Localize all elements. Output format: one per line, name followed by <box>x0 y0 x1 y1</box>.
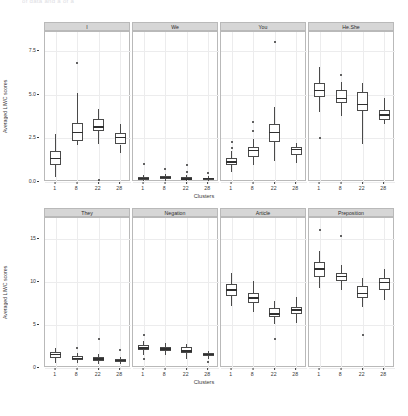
x-tick-label: 28 <box>116 371 122 377</box>
gridline-horizontal <box>133 368 219 369</box>
x-tick-label: 22 <box>271 371 277 377</box>
facet-strip-i: I <box>44 22 130 31</box>
median-line <box>291 309 302 310</box>
facet-strip-they: They <box>44 208 130 217</box>
x-tick-label: 28 <box>204 371 210 377</box>
gridline-horizontal <box>221 368 307 369</box>
x-tick-label: 8 <box>251 371 254 377</box>
y-tick-label: 10 <box>30 278 36 284</box>
median-line <box>115 137 126 138</box>
boxplot-box <box>45 32 131 182</box>
median-line <box>115 360 126 361</box>
facet-panel-article <box>220 217 306 367</box>
whisker-lower <box>384 120 385 123</box>
y-tick-label: 7.5 <box>29 47 36 53</box>
median-line <box>379 282 390 283</box>
y-axis-ticks: 0.02.55.07.5 <box>16 31 38 181</box>
x-tick-label: 28 <box>116 185 122 191</box>
x-tick-label: 22 <box>95 371 101 377</box>
gridline-horizontal <box>309 368 395 369</box>
x-tick-label: 28 <box>380 371 386 377</box>
y-tick-label: 2.5 <box>29 134 36 140</box>
whisker-upper <box>384 269 385 278</box>
outlier-point <box>207 172 209 174</box>
facet-panel-they <box>44 217 130 367</box>
x-tick-label: 8 <box>75 371 78 377</box>
facet-strip-label: Preposition <box>338 210 364 216</box>
y-axis-title: Averaged LIWC scores <box>2 231 8 353</box>
whisker-upper <box>296 297 297 307</box>
x-tick-label: 28 <box>292 185 298 191</box>
x-axis-title: Clusters <box>0 379 408 385</box>
gridline-horizontal <box>309 182 395 183</box>
boxplot-box <box>133 218 219 368</box>
facet-panel-i <box>44 31 130 181</box>
facet-strip-label: Article <box>256 210 270 216</box>
x-tick-label: 22 <box>359 185 365 191</box>
facet-panel-we <box>132 31 218 181</box>
whisker-lower <box>120 362 121 364</box>
whisker-upper <box>120 124 121 133</box>
gridline-horizontal <box>221 182 307 183</box>
facet-panel-he-she <box>308 31 394 181</box>
facet-panel-preposition <box>308 217 394 367</box>
x-tick-label: 1 <box>317 185 320 191</box>
x-tick-label: 28 <box>292 371 298 377</box>
boxplot-box <box>221 32 307 182</box>
facet-strip-negation: Negation <box>132 208 218 217</box>
boxplot-box <box>133 32 219 182</box>
whisker-lower <box>296 155 297 163</box>
boxplot-box <box>221 218 307 368</box>
whisker-lower <box>208 180 209 181</box>
x-tick-label: 1 <box>141 185 144 191</box>
boxplot-box <box>309 32 395 182</box>
x-tick-label: 22 <box>271 185 277 191</box>
x-tick-label: 8 <box>163 371 166 377</box>
median-line <box>203 354 214 355</box>
x-tick-label: 8 <box>339 371 342 377</box>
y-tick-label: 5 <box>33 321 36 327</box>
facet-strip-label: Negation <box>165 210 186 216</box>
y-tick-label: 0 <box>33 364 36 370</box>
y-tick-label: 5.0 <box>29 91 36 97</box>
x-tick-label: 28 <box>204 185 210 191</box>
x-tick-label: 1 <box>229 371 232 377</box>
x-tick-label: 8 <box>339 185 342 191</box>
y-axis-title: Averaged LIWC scores <box>2 45 8 167</box>
whisker-upper <box>384 98 385 109</box>
median-line <box>203 178 214 179</box>
median-line <box>379 114 390 115</box>
gridline-horizontal <box>45 182 131 183</box>
facet-strip-label: You <box>259 24 268 30</box>
box-iqr <box>115 133 126 144</box>
x-tick-label: 8 <box>75 185 78 191</box>
x-tick-label: 22 <box>183 371 189 377</box>
box-iqr <box>379 278 390 291</box>
x-tick-label: 1 <box>229 185 232 191</box>
x-tick-label: 22 <box>359 371 365 377</box>
median-line <box>291 149 302 150</box>
x-tick-label: 1 <box>53 371 56 377</box>
boxplot-box <box>309 218 395 368</box>
whisker-lower <box>208 356 209 359</box>
x-tick-label: 28 <box>380 185 386 191</box>
x-tick-label: 22 <box>95 185 101 191</box>
x-tick-label: 1 <box>317 371 320 377</box>
outlier-point <box>207 361 209 363</box>
y-tick-label: 0.0 <box>29 178 36 184</box>
x-tick-label: 8 <box>163 185 166 191</box>
figure-boxplot-grid: of data and a of a Averaged LIWC scores0… <box>0 0 408 416</box>
facet-strip-you: You <box>220 22 306 31</box>
facet-strip-he-she: He.She <box>308 22 394 31</box>
x-tick-label: 1 <box>53 185 56 191</box>
facet-strip-preposition: Preposition <box>308 208 394 217</box>
x-tick-label: 22 <box>183 185 189 191</box>
facet-strip-label: He.She <box>342 24 359 30</box>
x-tick-label: 8 <box>251 185 254 191</box>
whisker-lower <box>296 314 297 323</box>
gridline-horizontal <box>45 368 131 369</box>
whisker-lower <box>120 145 121 154</box>
facet-strip-label: They <box>81 210 93 216</box>
cutoff-caption-text: of data and a of a <box>22 0 222 7</box>
whisker-lower <box>384 290 385 300</box>
